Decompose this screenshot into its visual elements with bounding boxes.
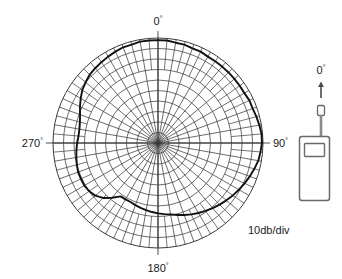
device-illustration: 0°: [300, 64, 330, 201]
up-arrow-icon: [318, 82, 324, 99]
figure-canvas: 0° 90° 180° 270° 10db/div 0°: [0, 0, 342, 279]
device-orientation-label: 0°: [317, 64, 326, 76]
axis-label-270deg: 270°: [22, 137, 43, 149]
axis-label-90deg: 90°: [273, 137, 288, 149]
axis-label-0deg: 0°: [154, 15, 163, 27]
radio-display: [305, 144, 325, 157]
polar-pattern-figure: 0° 90° 180° 270° 10db/div 0°: [0, 0, 342, 279]
scale-note-label: 10db/div: [248, 224, 290, 236]
axis-label-180deg: 180°: [147, 262, 168, 274]
polar-grid: [46, 31, 270, 255]
antenna-tip: [318, 106, 325, 116]
